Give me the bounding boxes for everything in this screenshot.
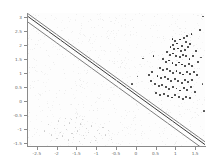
background-speck [131,124,132,125]
data-point [173,48,175,50]
background-speck [141,143,142,144]
background-speck [159,37,160,38]
data-point [91,125,92,126]
background-speck [147,61,148,62]
background-speck [89,110,90,111]
background-speck [152,85,153,86]
background-speck [116,72,117,73]
background-speck [95,102,96,103]
background-speck [151,102,152,103]
background-speck [116,143,117,144]
background-speck [95,39,96,40]
background-speck [170,66,171,67]
data-point [166,68,168,70]
background-speck [148,138,149,139]
data-point [175,64,177,66]
background-speck [75,81,76,82]
background-speck [98,98,99,99]
background-speck [108,100,109,101]
background-speck [172,17,173,18]
background-speck [75,113,76,114]
background-speck [144,64,145,65]
data-point [185,96,187,98]
background-speck [56,97,57,98]
background-speck [130,20,131,21]
x-tick-label: -2.5 [33,151,42,156]
background-speck [120,122,121,123]
background-speck [199,36,200,37]
background-speck [157,37,158,38]
background-speck [170,112,171,113]
background-speck [150,67,151,68]
data-point [184,49,186,51]
background-speck [94,41,95,42]
background-speck [99,14,100,15]
data-point [185,41,187,43]
background-speck [189,121,190,122]
background-speck [174,70,175,71]
background-speck [76,85,77,86]
background-speck [109,35,110,36]
background-speck [126,87,127,88]
background-speck [97,110,98,111]
background-speck [96,36,97,37]
background-speck [204,50,205,51]
background-speck [117,134,118,135]
background-speck [106,76,107,77]
y-tick-mark [24,129,27,130]
background-speck [124,35,125,36]
background-speck [86,57,87,58]
background-speck [31,29,32,30]
background-speck [142,15,143,16]
background-speck [174,144,175,145]
background-speck [137,143,138,144]
background-speck [60,117,61,118]
background-speck [127,51,128,52]
background-speck [82,144,83,145]
background-speck [49,67,50,68]
background-speck [109,131,110,132]
background-speck [116,33,117,34]
background-speck [190,132,191,133]
background-speck [195,117,196,118]
background-speck [149,126,150,127]
data-point [195,50,197,52]
background-speck [83,107,84,108]
background-speck [72,31,73,32]
background-speck [159,25,160,26]
background-speck [193,14,194,15]
background-speck [189,95,190,96]
data-point [84,138,85,139]
background-speck [185,28,186,29]
background-speck [141,133,142,134]
background-speck [40,95,41,96]
background-speck [198,115,199,116]
background-speck [134,117,135,118]
background-speck [43,43,44,44]
background-speck [161,108,162,109]
background-speck [124,67,125,68]
background-speck [114,58,115,59]
background-speck [175,33,176,34]
background-speck [38,80,39,81]
background-speck [37,71,38,72]
background-speck [196,44,197,45]
background-speck [135,67,136,68]
background-speck [71,88,72,89]
y-tick-mark [24,59,27,60]
background-speck [86,73,87,74]
background-speck [148,88,149,89]
background-speck [89,40,90,41]
background-speck [124,127,125,128]
background-speck [163,115,164,116]
x-tick-label: 1.5 [192,151,199,156]
background-speck [176,41,177,42]
background-speck [171,134,172,135]
background-speck [182,130,183,131]
y-tick-label: 3 [19,15,22,20]
background-speck [169,63,170,64]
background-speck [82,116,83,117]
background-speck [101,108,102,109]
data-point [189,43,191,45]
background-speck [162,131,163,132]
